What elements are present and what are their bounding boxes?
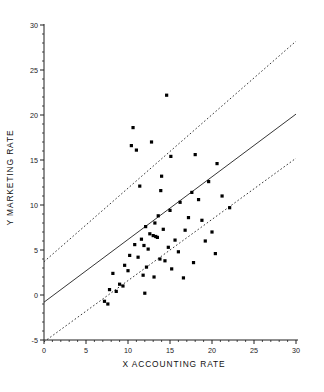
x-tick-label: 20 [208, 346, 216, 355]
data-point [111, 272, 114, 275]
data-point [140, 238, 143, 241]
scatter-plot-figure: -5051015202530051015202530X ACCOUNTING R… [0, 0, 324, 392]
data-point [168, 209, 171, 212]
data-point [143, 292, 146, 295]
data-point [200, 219, 203, 222]
data-point [138, 185, 141, 188]
data-point [182, 276, 185, 279]
data-point [153, 221, 156, 224]
data-point [163, 259, 166, 262]
data-point [121, 284, 124, 287]
upper-confidence-band [44, 41, 296, 262]
data-point [170, 267, 173, 270]
data-point [126, 269, 129, 272]
y-tick-label: 20 [30, 111, 38, 120]
data-point [162, 228, 165, 231]
data-point [103, 300, 106, 303]
data-point [136, 256, 139, 259]
data-point [150, 140, 153, 143]
data-point [106, 302, 109, 305]
data-point [128, 254, 131, 257]
data-point [184, 229, 187, 232]
data-point [160, 175, 163, 178]
y-tick-label: 30 [30, 21, 38, 30]
data-point [204, 239, 207, 242]
data-point [118, 283, 121, 286]
x-tick-label: 5 [84, 346, 88, 355]
data-point [142, 274, 145, 277]
data-point [214, 252, 217, 255]
axis-labels-group: -5051015202530051015202530X ACCOUNTING R… [5, 21, 300, 369]
x-tick-label: 25 [250, 346, 258, 355]
data-points-group [103, 94, 231, 306]
chart-canvas: -5051015202530051015202530X ACCOUNTING R… [0, 0, 324, 392]
data-point [145, 266, 148, 269]
data-point [131, 126, 134, 129]
regression-line [44, 114, 296, 302]
x-tick-label: 15 [166, 346, 174, 355]
data-point [144, 225, 147, 228]
x-tick-label: 10 [124, 346, 132, 355]
data-point [215, 162, 218, 165]
y-tick-label: 15 [30, 156, 38, 165]
data-point [169, 155, 172, 158]
data-point [207, 180, 210, 183]
data-point [108, 288, 111, 291]
data-point [142, 244, 145, 247]
data-point [228, 206, 231, 209]
y-tick-label: 10 [30, 201, 38, 210]
data-point [147, 248, 150, 251]
data-point [197, 198, 200, 201]
x-tick-label: 0 [42, 346, 46, 355]
data-point [190, 191, 193, 194]
data-point [167, 246, 170, 249]
data-point [210, 230, 213, 233]
data-point [135, 149, 138, 152]
fit-lines-group [44, 41, 296, 342]
data-point [115, 290, 118, 293]
data-point [130, 144, 133, 147]
data-point [159, 189, 162, 192]
y-tick-label: 0 [34, 291, 38, 300]
data-point [177, 250, 180, 253]
data-point [194, 153, 197, 156]
data-point [148, 232, 151, 235]
data-point [152, 275, 155, 278]
x-tick-label: 30 [292, 346, 300, 355]
data-point [173, 239, 176, 242]
data-point [156, 236, 159, 239]
data-point [158, 257, 161, 260]
data-point [192, 261, 195, 264]
lower-confidence-band [44, 158, 296, 342]
y-axis-title: Y MARKETING RATE [5, 130, 15, 226]
y-tick-label: -5 [32, 336, 38, 345]
data-point [133, 243, 136, 246]
axes-group [40, 24, 298, 344]
data-point [157, 214, 160, 217]
data-point [220, 194, 223, 197]
data-point [123, 264, 126, 267]
data-point [178, 201, 181, 204]
y-tick-label: 25 [30, 66, 38, 75]
x-axis-title: X ACCOUNTING RATE [122, 359, 225, 369]
data-point [165, 94, 168, 97]
data-point [187, 216, 190, 219]
y-tick-label: 5 [34, 246, 38, 255]
